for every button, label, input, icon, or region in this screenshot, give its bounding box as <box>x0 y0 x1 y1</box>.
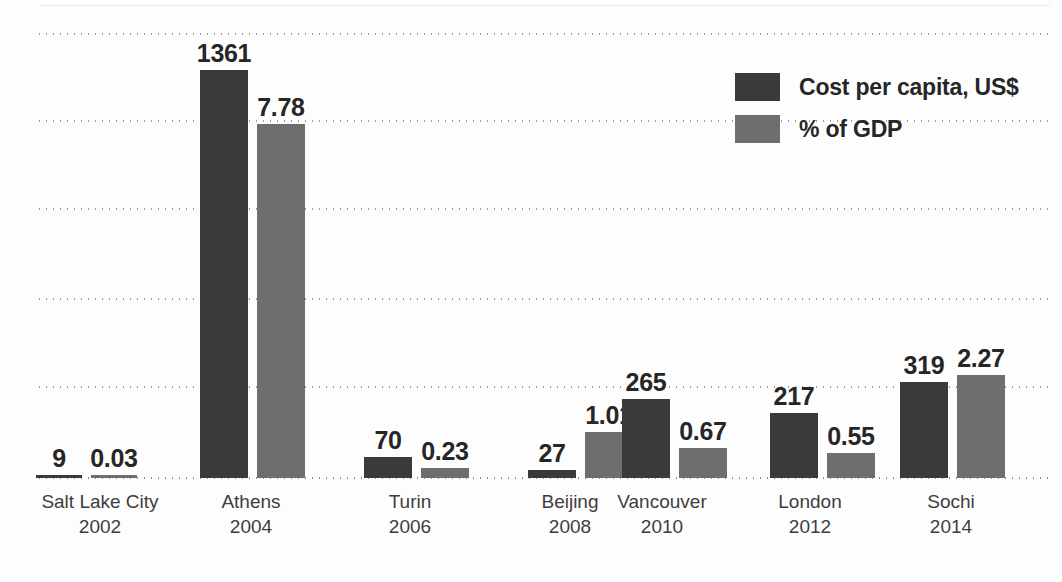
legend: Cost per capita, US$ % of GDP <box>735 66 1019 150</box>
legend-item-pct-of-gdp[interactable]: % of GDP <box>735 108 1019 150</box>
gridline <box>36 298 1050 300</box>
bar-cost-per-capita[interactable] <box>528 470 576 478</box>
bar-cost-per-capita[interactable] <box>900 382 948 478</box>
category-city: Salt Lake City <box>41 491 158 512</box>
bar-value-label: 0.03 <box>73 444 155 473</box>
bar-value-label: 1361 <box>182 39 266 68</box>
legend-item-cost-per-capita[interactable]: Cost per capita, US$ <box>735 66 1019 108</box>
bar-value-label: 0.55 <box>809 422 893 451</box>
bar-pct-of-gdp[interactable] <box>91 475 137 478</box>
gridline <box>36 208 1050 210</box>
bar-pct-of-gdp[interactable] <box>827 453 875 478</box>
bar-value-label: 217 <box>752 382 836 411</box>
bar-value-label: 265 <box>604 368 688 397</box>
bar-pct-of-gdp[interactable] <box>957 375 1005 478</box>
category-city: Athens <box>221 491 280 512</box>
bar-value-label: 0.67 <box>661 417 745 446</box>
x-axis-category-label: Sochi2014 <box>851 489 1051 539</box>
legend-swatch-icon <box>735 115 780 143</box>
legend-label: % of GDP <box>799 116 902 143</box>
bar-chart: 90.0313617.78700.23271.012650.672170.553… <box>0 0 1062 582</box>
bar-cost-per-capita[interactable] <box>36 475 82 478</box>
category-city: Sochi <box>927 491 975 512</box>
bar-value-label: 27 <box>510 439 594 468</box>
bar-value-label: 0.23 <box>403 437 487 466</box>
category-year: 2014 <box>851 514 1051 539</box>
category-city: Turin <box>389 491 432 512</box>
category-city: Vancouver <box>617 491 706 512</box>
bar-pct-of-gdp[interactable] <box>421 468 469 478</box>
gridline <box>36 386 1050 388</box>
bar-value-label: 2.27 <box>939 344 1023 373</box>
category-city: London <box>778 491 841 512</box>
bar-cost-per-capita[interactable] <box>200 70 248 478</box>
bar-pct-of-gdp[interactable] <box>257 124 305 478</box>
gridline <box>36 33 1050 35</box>
legend-swatch-icon <box>735 73 780 101</box>
bar-pct-of-gdp[interactable] <box>679 448 727 478</box>
legend-label: Cost per capita, US$ <box>799 74 1019 101</box>
bar-value-label: 7.78 <box>239 93 323 122</box>
